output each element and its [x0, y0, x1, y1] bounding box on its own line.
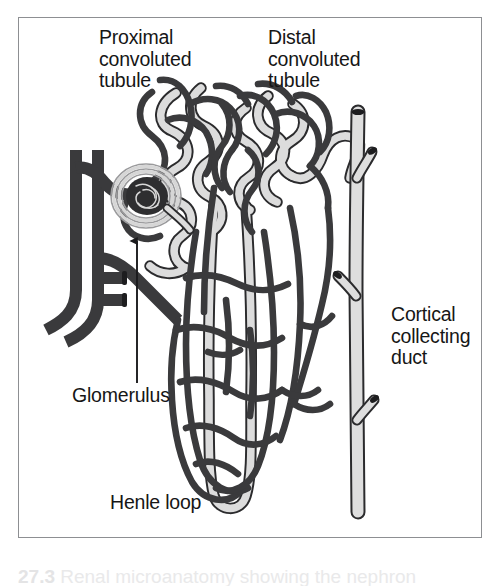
figure-root: Proximal convoluted tubule Distal convol…	[0, 0, 500, 586]
artery-branch-mid	[98, 258, 178, 320]
figure-caption-text: Renal microanatomy showing the nephron	[60, 566, 416, 586]
label-cortical-collecting-duct: Cortical collecting duct	[391, 304, 500, 369]
label-henle-loop: Henle loop	[110, 492, 260, 514]
cortical-collecting-duct	[332, 109, 380, 512]
arteriole-cut-ends	[122, 271, 127, 307]
label-glomerulus: Glomerulus	[72, 385, 222, 407]
label-proximal-convoluted-tubule: Proximal convoluted tubule	[99, 27, 229, 92]
figure-caption: 27.3 Renal microanatomy showing the neph…	[18, 566, 488, 586]
label-distal-convoluted-tubule: Distal convoluted tubule	[268, 27, 398, 92]
artery-trunk-1	[46, 150, 76, 330]
figure-caption-number: 27.3	[18, 566, 55, 586]
